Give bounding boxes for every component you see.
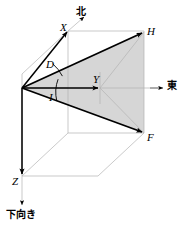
guide-x-extension bbox=[68, 17, 84, 31]
diagram-canvas bbox=[0, 0, 191, 229]
box-edge-bottom-left-diag bbox=[22, 133, 68, 176]
vector-f-label: F bbox=[147, 132, 154, 143]
direction-east-label: 東 bbox=[167, 81, 177, 91]
angle-i-label: I bbox=[49, 92, 53, 103]
vector-h-label: H bbox=[147, 26, 155, 37]
direction-north-label: 北 bbox=[76, 7, 86, 17]
box-edge-bottom-right-diag bbox=[98, 133, 144, 176]
axis-x-label: X bbox=[60, 22, 67, 33]
box-edge-top-left-diag bbox=[22, 31, 68, 74]
axis-z-label: Z bbox=[12, 176, 18, 187]
geomagnetic-field-diagram: X Y Z H F D I 北 東 下向き bbox=[0, 0, 191, 229]
direction-down-label: 下向き bbox=[6, 210, 36, 220]
angle-d-label: D bbox=[46, 59, 54, 70]
shaded-meridian-plane bbox=[22, 32, 144, 133]
axis-y-label: Y bbox=[93, 74, 99, 85]
